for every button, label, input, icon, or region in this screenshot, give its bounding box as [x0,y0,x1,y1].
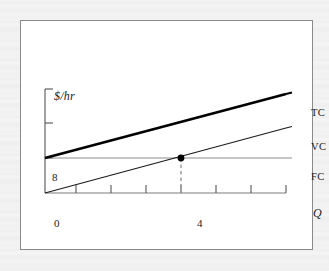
variable-cost-line [45,128,286,193]
y-axis-label: $/hr [54,90,75,102]
vc-equals-fc-point [178,155,185,162]
cost-curves-plot [21,21,312,249]
tc-label-leader [286,93,292,95]
curve-label-total-cost: TC [311,108,325,119]
figure-frame: $/hr Q 8 0 4 TC VC FC [20,20,313,250]
curve-label-variable-cost: VC [311,142,326,153]
x-axis-label: Q [313,207,322,219]
x-tick-label-4: 4 [197,218,203,229]
total-cost-line [45,94,286,158]
curve-label-fixed-cost: FC [311,172,324,183]
vc-label-leader [286,127,292,129]
x-tick-label-origin: 0 [54,218,60,229]
y-tick-label-8: 8 [52,172,58,183]
